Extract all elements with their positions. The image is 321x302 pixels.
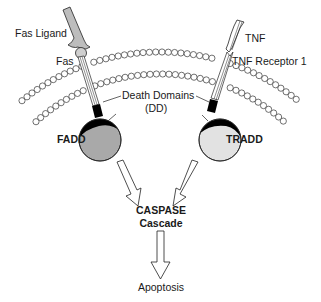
tnf-shape <box>226 20 244 52</box>
fas-ligand-label: Fas Ligand <box>15 27 67 39</box>
tnf-label: TNF <box>245 32 265 44</box>
arrow-caspase-to-apoptosis <box>151 231 170 279</box>
fadd-label: FADD <box>57 133 86 145</box>
apoptosis-label: Apoptosis <box>138 281 184 293</box>
fas-ligand-shape <box>63 7 90 49</box>
death-domains-label: Death Domains <box>122 89 194 101</box>
fas-death-domain <box>92 104 103 118</box>
fas-label: Fas <box>56 55 74 67</box>
arrow-tradd-to-caspase <box>173 160 198 206</box>
arrow-fadd-to-caspase <box>117 160 141 206</box>
tnf-receptor-1-label: TNF Receptor 1 <box>232 55 307 67</box>
tnfr1-death-domain <box>207 99 218 113</box>
cascade-label: Cascade <box>139 217 182 229</box>
dd-abbrev-label: (DD) <box>145 102 167 114</box>
tradd-label: TRADD <box>226 133 263 145</box>
diagram-canvas: Fas Ligand Fas TNF TNF Receptor 1 Death … <box>0 0 321 302</box>
caspase-label: CASPASE <box>136 204 186 216</box>
